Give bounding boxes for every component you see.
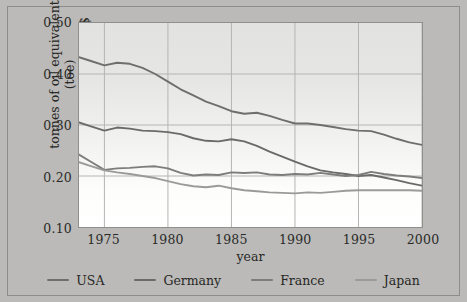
legend-swatch-germany-icon bbox=[134, 279, 156, 281]
legend-item-japan[interactable]: Japan bbox=[355, 273, 420, 288]
legend-label: Germany bbox=[163, 273, 221, 288]
y-axis-tick-labels: 0.500.400.300.200.10 bbox=[14, 22, 72, 228]
x-axis-tick-1975: 1975 bbox=[87, 232, 120, 247]
legend-label: USA bbox=[76, 273, 104, 288]
series-line-usa bbox=[79, 57, 422, 145]
x-axis-label: year bbox=[78, 249, 423, 264]
x-axis-tick-1995: 1995 bbox=[343, 232, 376, 247]
x-axis-tick-1985: 1985 bbox=[215, 232, 248, 247]
y-axis-tick-0-50: 0.50 bbox=[43, 15, 72, 30]
legend-swatch-usa-icon bbox=[47, 279, 69, 281]
x-axis-tick-1980: 1980 bbox=[151, 232, 184, 247]
chart-legend: USAGermanyFranceJapan bbox=[20, 270, 447, 290]
y-axis-tick-0-30: 0.30 bbox=[43, 118, 72, 133]
x-axis-tick-2000: 2000 bbox=[407, 232, 440, 247]
x-axis-tick-1990: 1990 bbox=[279, 232, 312, 247]
y-axis-tick-0-20: 0.20 bbox=[43, 169, 72, 184]
plot-wrapper bbox=[78, 22, 423, 228]
data-series-lines bbox=[79, 23, 422, 227]
legend-swatch-japan-icon bbox=[355, 279, 377, 281]
chart-figure: tonnes of oil equivalent (toe) per thous… bbox=[0, 0, 467, 302]
y-axis-tick-0-40: 0.40 bbox=[43, 66, 72, 81]
x-axis-tick-labels: 197519801985199019952000 bbox=[78, 232, 423, 250]
legend-item-usa[interactable]: USA bbox=[47, 273, 104, 288]
legend-swatch-france-icon bbox=[251, 279, 273, 281]
legend-label: Japan bbox=[384, 273, 420, 288]
plot-area bbox=[78, 22, 423, 228]
y-axis-tick-0-10: 0.10 bbox=[43, 221, 72, 236]
legend-label: France bbox=[280, 273, 325, 288]
legend-item-france[interactable]: France bbox=[251, 273, 325, 288]
legend-item-germany[interactable]: Germany bbox=[134, 273, 221, 288]
